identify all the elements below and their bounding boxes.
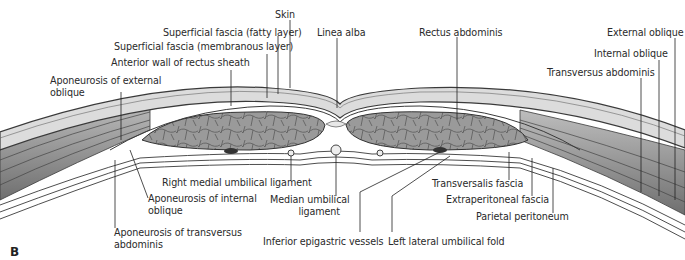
rectus-abdominis-right <box>346 112 528 150</box>
label-parietal-peritoneum: Parietal peritoneum <box>476 211 569 223</box>
label-inferior-epigastric-vessels: Inferior epigastric vessels <box>263 236 383 248</box>
label-line-1: Aponeurosis of transversus <box>114 227 242 239</box>
label-linea-alba: Linea alba <box>317 27 365 39</box>
label-rectus-abdominis: Rectus abdominis <box>419 27 502 39</box>
label-aponeurosis-transversus: Aponeurosis of transversus abdominis <box>114 227 242 251</box>
linea-alba <box>326 121 346 127</box>
label-transversus-abdominis: Transversus abdominis <box>547 67 655 79</box>
panel-label: B <box>10 245 19 259</box>
median-umbilical-ligament-shape <box>331 145 341 155</box>
label-line-2: oblique <box>148 205 257 217</box>
label-right-medial-umbilical-ligament: Right medial umbilical ligament <box>162 177 312 189</box>
label-line-2: oblique <box>50 87 161 99</box>
label-superficial-fascia-membranous: Superficial fascia (membranous layer) <box>114 41 293 53</box>
label-superficial-fascia-fatty: Superficial fascia (fatty layer) <box>163 27 302 39</box>
label-line-2: abdominis <box>114 239 242 251</box>
label-line-2: ligament <box>270 206 340 218</box>
rectus-abdominis-left <box>142 112 325 150</box>
label-line-1: Median umbilical <box>270 194 340 206</box>
label-skin: Skin <box>275 9 295 21</box>
label-aponeurosis-external-oblique: Aponeurosis of external oblique <box>50 75 161 99</box>
right-medial-umbilical-ligament-shape <box>288 150 294 156</box>
label-internal-oblique: Internal oblique <box>594 48 668 60</box>
label-extraperitoneal-fascia: Extraperitoneal fascia <box>446 194 549 206</box>
label-left-lateral-umbilical-fold: Left lateral umbilical fold <box>388 236 505 248</box>
label-line-1: Aponeurosis of internal <box>148 193 257 205</box>
anatomy-illustration <box>0 0 685 260</box>
inferior-epigastric-vessels-right <box>224 148 238 154</box>
label-transversalis-fascia: Transversalis fascia <box>432 178 523 190</box>
label-anterior-wall-rectus-sheath: Anterior wall of rectus sheath <box>111 57 250 69</box>
label-external-oblique: External oblique <box>607 27 684 39</box>
label-aponeurosis-internal-oblique: Aponeurosis of internal oblique <box>148 193 257 217</box>
left-medial-umbilical-ligament-shape <box>377 150 383 156</box>
label-line-1: Aponeurosis of external <box>50 75 161 87</box>
label-median-umbilical-ligament: Median umbilical ligament <box>270 194 340 218</box>
